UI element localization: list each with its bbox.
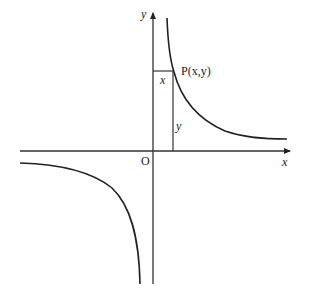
hyperbola-right-branch: [167, 18, 287, 139]
origin-label: O: [141, 154, 150, 168]
x-axis-label: x: [281, 155, 288, 169]
rectangle-height-label: y: [175, 119, 182, 133]
point-p-label: P(x,y): [181, 64, 211, 78]
hyperbola-diagram: y x O P(x,y) x y: [0, 0, 309, 298]
rectangle-width-label: x: [159, 73, 166, 87]
y-axis-label: y: [140, 7, 147, 21]
hyperbola-left-branch: [20, 163, 140, 284]
